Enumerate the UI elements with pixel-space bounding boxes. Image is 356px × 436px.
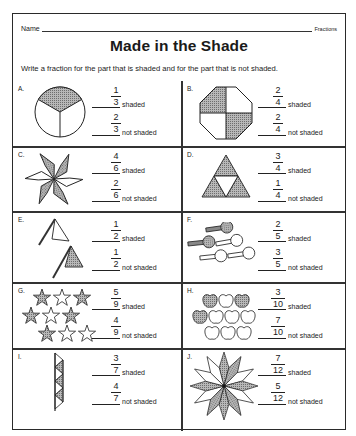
answer-line bbox=[258, 309, 286, 310]
problem-h: H. 3 10 shaded bbox=[182, 283, 348, 348]
five-keys-icon bbox=[186, 222, 266, 278]
answer-line bbox=[92, 404, 120, 405]
answer-line bbox=[258, 201, 286, 202]
seven-triangle-strip-icon bbox=[53, 351, 69, 431]
shaded-label: shaded bbox=[288, 167, 311, 174]
shaded-label: shaded bbox=[288, 303, 311, 310]
problem-d: D. 3 4 shaded 1 4 not shaded bbox=[182, 147, 348, 211]
problem-letter: D. bbox=[187, 151, 194, 158]
answer-line bbox=[92, 201, 120, 202]
page-title: Made in the Shade bbox=[13, 37, 345, 55]
shaded-label: shaded bbox=[122, 303, 145, 310]
answer-line bbox=[92, 135, 120, 136]
nine-stars-icon bbox=[19, 286, 103, 346]
problem-i: I. 3 7 shaded 4 7 n bbox=[13, 349, 179, 431]
answer-line bbox=[258, 338, 286, 339]
octagon-quarters-icon bbox=[198, 85, 254, 141]
answer-line bbox=[258, 135, 286, 136]
not-shaded-label: not shaded bbox=[288, 332, 323, 339]
not-shaded-label: not shaded bbox=[288, 195, 323, 202]
two-flags-icon bbox=[31, 215, 87, 279]
problem-letter: B. bbox=[187, 85, 193, 92]
instructions: Write a fraction for the part that is sh… bbox=[21, 64, 278, 73]
answer-line bbox=[258, 107, 286, 108]
answer-line bbox=[92, 173, 120, 174]
problem-letter: A. bbox=[18, 85, 24, 92]
not-shaded-label: not shaded bbox=[122, 332, 157, 339]
answer-line bbox=[92, 107, 120, 108]
shaded-label: shaded bbox=[288, 101, 311, 108]
triangle-quarters-icon bbox=[200, 153, 252, 201]
problem-b: B. 2 4 shaded 2 4 not shaded bbox=[182, 81, 348, 146]
answer-line bbox=[258, 241, 286, 242]
name-label: Name bbox=[21, 25, 40, 32]
name-input-line[interactable] bbox=[42, 24, 313, 32]
worksheet: Name Fractions Made in the Shade Write a… bbox=[12, 13, 346, 430]
six-rhombus-star-icon bbox=[23, 149, 85, 209]
shaded-label: shaded bbox=[288, 369, 311, 376]
problem-e: E. 1 2 shaded 1 2 not shaded bbox=[13, 212, 179, 282]
answer-line bbox=[92, 375, 120, 376]
answer-line bbox=[92, 270, 120, 271]
answer-line bbox=[258, 270, 286, 271]
shaded-label: shaded bbox=[288, 235, 311, 242]
twelve-petal-star-icon bbox=[188, 350, 260, 422]
subject-label: Fractions bbox=[314, 26, 337, 32]
not-shaded-label: not shaded bbox=[122, 129, 157, 136]
shaded-label: shaded bbox=[122, 369, 145, 376]
problem-letter: I. bbox=[18, 353, 22, 360]
not-shaded-label: not shaded bbox=[288, 398, 323, 405]
answer-line bbox=[258, 375, 286, 376]
not-shaded-label: not shaded bbox=[122, 195, 157, 202]
problem-a: A. 1 3 shaded 2 3 not shaded bbox=[13, 81, 179, 146]
not-shaded-label: not shaded bbox=[288, 129, 323, 136]
problem-f: F. bbox=[182, 212, 348, 282]
problem-j: J. 7 12 shaded bbox=[182, 349, 348, 431]
not-shaded-label: not shaded bbox=[122, 264, 157, 271]
shaded-label: shaded bbox=[122, 235, 145, 242]
problem-letter: E. bbox=[18, 216, 24, 223]
answer-line bbox=[92, 309, 120, 310]
answer-line bbox=[92, 241, 120, 242]
answer-line bbox=[258, 173, 286, 174]
shaded-label: shaded bbox=[122, 167, 145, 174]
ten-apples-icon bbox=[188, 289, 266, 345]
problem-c: C. 4 6 shaded 2 6 not shaded bbox=[13, 147, 179, 211]
name-row: Name Fractions bbox=[21, 20, 337, 32]
shaded-label: shaded bbox=[122, 101, 145, 108]
problem-g: G. 5 9 shaded 4 bbox=[13, 283, 179, 348]
circle-thirds-icon bbox=[32, 84, 88, 140]
not-shaded-label: not shaded bbox=[288, 264, 323, 271]
answer-line bbox=[258, 404, 286, 405]
not-shaded-label: not shaded bbox=[122, 398, 157, 405]
answer-line bbox=[92, 338, 120, 339]
